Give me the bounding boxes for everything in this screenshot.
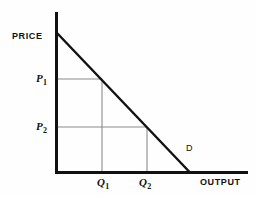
x-axis-title: OUTPUT [200, 178, 241, 187]
price-label-p1-subscript: 1 [43, 78, 47, 87]
price-label-p2-text: P [36, 120, 43, 132]
quantity-label-q1: Q1 [97, 177, 109, 188]
quantity-label-q1-text: Q [97, 176, 105, 188]
price-label-p1: P1 [36, 73, 47, 84]
price-label-p1-text: P [36, 72, 43, 84]
quantity-label-q2-subscript: 2 [147, 182, 151, 191]
quantity-label-q1-subscript: 1 [105, 182, 109, 191]
y-axis-title: PRICE [12, 32, 43, 41]
demand-curve-label: D [186, 144, 193, 153]
price-label-p2-subscript: 2 [43, 126, 47, 135]
price-label-p2: P2 [36, 121, 47, 132]
demand-curve [57, 33, 191, 173]
demand-curve-figure: PRICE OUTPUT P1 P2 Q1 Q2 D [0, 0, 256, 197]
quantity-label-q2: Q2 [139, 177, 151, 188]
quantity-label-q2-text: Q [139, 176, 147, 188]
chart-canvas [0, 0, 256, 197]
